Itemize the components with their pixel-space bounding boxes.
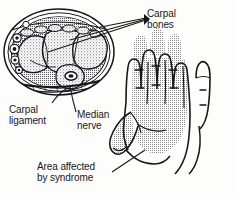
median-nerve-core — [68, 74, 73, 78]
label-carpal-ligament: Carpal ligament — [9, 104, 46, 126]
carpal-tunnel-illustration — [0, 0, 234, 199]
label-area-affected: Area affected by syndrome — [37, 161, 95, 183]
label-carpal-bones: Carpal bones — [147, 8, 176, 30]
label-median-nerve: Median nerve — [77, 109, 109, 131]
wrist-cross-section — [4, 9, 114, 95]
